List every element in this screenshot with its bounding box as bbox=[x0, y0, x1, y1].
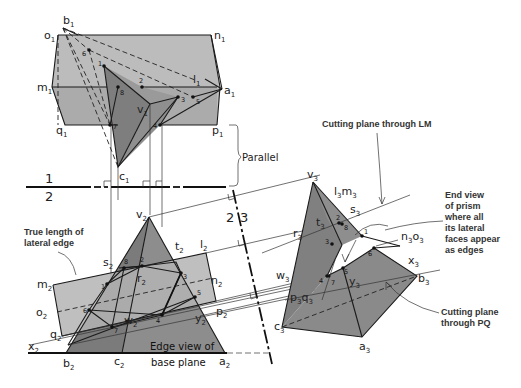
end-view-label-line4: its lateral bbox=[445, 223, 485, 233]
point-3-view2: 3 bbox=[183, 273, 187, 281]
point-4-view3: 4 bbox=[319, 277, 323, 285]
label-a3: a3 bbox=[359, 340, 370, 355]
cutting-plane-lm-leader bbox=[377, 133, 385, 204]
point-1-view3: 1 bbox=[364, 228, 368, 236]
label-p2: p2 bbox=[216, 305, 227, 320]
label-m1: m1 bbox=[37, 81, 52, 96]
label-n1: n1 bbox=[214, 29, 225, 44]
edge-view-label-line1: Edge view of bbox=[150, 341, 215, 352]
point-2-view3: 2 bbox=[336, 214, 340, 222]
label-q1: q1 bbox=[56, 124, 67, 139]
label-l3m3: l3m3 bbox=[334, 185, 357, 200]
label-v2: v2 bbox=[136, 208, 147, 223]
end-view-label-line6: as edges bbox=[445, 245, 484, 255]
point-4-view2: 4 bbox=[156, 317, 160, 325]
label-c1: c1 bbox=[119, 170, 130, 185]
label-s3: s3 bbox=[350, 203, 360, 218]
edge-view-label-line2: base plane bbox=[151, 357, 206, 368]
label-o1: o1 bbox=[44, 29, 55, 44]
label-q2: q2 bbox=[50, 328, 61, 343]
parallel-label: Parallel bbox=[242, 152, 278, 163]
end-view-label-line2: of prism bbox=[445, 201, 481, 211]
point-8-view1: 8 bbox=[120, 89, 124, 97]
fold-label-1: 1 bbox=[45, 171, 53, 186]
descriptive-geometry-diagram: 1 2 3 4 5 6 7 8 b1 o1 n1 m1 l1 a1 q1 p1 … bbox=[0, 0, 521, 388]
point-6-view1: 6 bbox=[82, 50, 86, 58]
cutting-plane-pq-label-line1: Cutting plane bbox=[441, 307, 499, 317]
point-1-view2: 1 bbox=[101, 283, 105, 291]
point-2-view2: 2 bbox=[140, 256, 144, 264]
point-6-view3: 6 bbox=[368, 250, 372, 258]
end-view-label-line1: End view bbox=[445, 190, 485, 200]
label-b3: b3 bbox=[418, 272, 429, 287]
parallel-brace: Parallel bbox=[229, 125, 278, 186]
true-length-label-line2: lateral edge bbox=[24, 238, 74, 248]
true-length-leader bbox=[58, 252, 76, 275]
cutting-plane-lm-label: Cutting plane through LM bbox=[322, 119, 431, 129]
point-3-view3: 3 bbox=[325, 238, 329, 246]
point-7-view2: 7 bbox=[114, 327, 118, 335]
label-b1: b1 bbox=[63, 14, 74, 29]
point-5-view1: 5 bbox=[196, 98, 200, 106]
true-length-label-line1: True length of bbox=[24, 227, 85, 237]
label-y2: y2 bbox=[195, 312, 206, 327]
label-p1: p1 bbox=[212, 124, 223, 139]
label-l2: l2 bbox=[200, 238, 208, 253]
label-m2: m2 bbox=[37, 278, 52, 293]
point-1-view1: 1 bbox=[98, 60, 102, 68]
view-3-auxiliary: 1 2 3 4 5 6 7 8 v3 l3m3 s3 t3 r3 n3o3 w3… bbox=[262, 119, 501, 355]
fold-label-3: 3 bbox=[240, 210, 248, 225]
point-7-view3: 7 bbox=[331, 279, 335, 287]
diagram-canvas: 1 2 3 4 5 6 7 8 b1 o1 n1 m1 l1 a1 q1 p1 … bbox=[0, 0, 521, 388]
cutting-plane-pq-label-line2: through PQ bbox=[441, 318, 491, 328]
label-r3: r3 bbox=[293, 227, 302, 242]
fold-label-2: 2 bbox=[45, 189, 53, 204]
label-w3: w3 bbox=[276, 269, 289, 284]
label-x2: x2 bbox=[28, 340, 39, 355]
point-6-view2: 6 bbox=[83, 307, 87, 315]
end-view-leader bbox=[385, 221, 443, 230]
label-b2: b2 bbox=[63, 357, 74, 372]
label-s2: s2 bbox=[103, 256, 113, 271]
fold-line-2-3: 2 3 bbox=[226, 190, 272, 364]
end-view-label-line3: where all bbox=[444, 212, 484, 222]
point-8-view2: 8 bbox=[124, 258, 128, 266]
end-view-label-line5: faces appear bbox=[445, 234, 501, 244]
label-n3o3: n3o3 bbox=[401, 230, 424, 245]
label-v3: v3 bbox=[307, 168, 318, 183]
label-t2: t2 bbox=[175, 240, 184, 255]
fold-line-1-2: 1 2 bbox=[26, 171, 226, 204]
label-o2: o2 bbox=[36, 306, 47, 321]
label-x3: x3 bbox=[408, 254, 419, 269]
point-7-view1: 7 bbox=[113, 123, 117, 131]
fold-label-2b: 2 bbox=[226, 210, 234, 225]
point-5-view3: 5 bbox=[344, 268, 348, 276]
point-2-view1: 2 bbox=[139, 77, 143, 85]
point-3-view1: 3 bbox=[181, 96, 185, 104]
view-1-top: 1 2 3 4 5 6 7 8 b1 o1 n1 m1 l1 a1 q1 p1 … bbox=[37, 14, 235, 185]
point-4-view1: 4 bbox=[153, 122, 157, 130]
label-n2: n2 bbox=[211, 274, 222, 289]
label-a1: a1 bbox=[224, 84, 235, 99]
label-a2: a2 bbox=[219, 355, 230, 370]
point-5-view2: 5 bbox=[197, 289, 201, 297]
point-8-view3: 8 bbox=[344, 224, 348, 232]
label-c2: c2 bbox=[114, 355, 125, 370]
